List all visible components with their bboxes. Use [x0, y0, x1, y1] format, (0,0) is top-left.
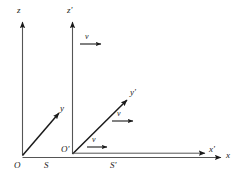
x-prime-axis-label: x' — [209, 145, 215, 154]
z-prime-axis-label: z' — [67, 6, 72, 15]
y-axis-line — [23, 113, 60, 156]
origin-O-prime-label: O' — [61, 145, 69, 154]
velocity-top-label: v — [85, 33, 89, 41]
origin-O-label: O — [14, 161, 21, 170]
y-prime-axis-label: y' — [130, 88, 136, 97]
z-axis-label: z — [17, 6, 21, 15]
diagram-canvas — [0, 0, 237, 178]
x-axis-label: x — [226, 151, 230, 160]
physics-reference-frames-figure: z z' y y' x' x O O' S S' v v v — [0, 0, 237, 178]
y-axis-label: y — [60, 104, 64, 113]
frame-S-prime-label: S' — [110, 161, 116, 170]
velocity-middle-label: v — [117, 110, 121, 118]
velocity-bottom-label: v — [92, 136, 96, 144]
frame-S-label: S — [44, 161, 49, 170]
